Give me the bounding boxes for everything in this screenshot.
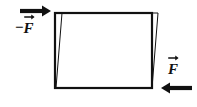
force-symbol-left: F xyxy=(24,20,34,36)
figure-canvas xyxy=(0,0,197,107)
force-label-negative-f: −F xyxy=(15,20,34,36)
minus-sign: − xyxy=(15,19,24,35)
sheared-block-outline xyxy=(56,13,158,88)
vector-f-right: F xyxy=(168,62,178,77)
undeformed-block-outline xyxy=(55,13,152,88)
force-label-f: F xyxy=(168,62,178,77)
force-symbol-right: F xyxy=(168,61,178,77)
shear-deformation-figure: −F F xyxy=(0,0,197,107)
force-arrow-top-left-icon xyxy=(20,6,51,17)
force-arrow-bottom-right-icon xyxy=(161,83,192,94)
vector-f-left: F xyxy=(24,21,34,36)
